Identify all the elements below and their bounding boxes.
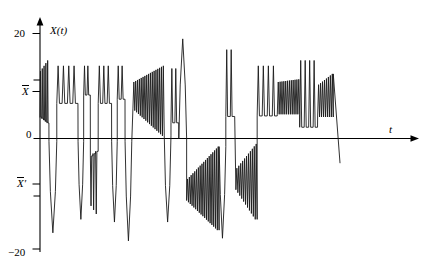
y-tick-label-minus20: −20 xyxy=(8,247,25,258)
x-axis-title: t xyxy=(389,124,392,135)
y-axis-arrowhead xyxy=(37,17,44,26)
y-tick-marks xyxy=(33,34,41,250)
y-tick-label-mean-lower-text: X xyxy=(17,177,24,189)
x-axis-arrowhead xyxy=(411,135,420,142)
overbar-upper xyxy=(22,85,29,86)
y-tick-label-mean-upper-text: X xyxy=(22,85,29,97)
prime-mark: ′ xyxy=(24,177,26,189)
chart-canvas xyxy=(0,0,434,268)
y-tick-label-zero: 0 xyxy=(26,129,32,140)
signal-trace-xt xyxy=(40,39,340,241)
y-tick-label-20: 20 xyxy=(14,28,25,39)
overbar-lower xyxy=(17,177,24,178)
y-tick-label-mean-upper: X xyxy=(22,86,29,97)
y-tick-label-mean-lower: X′ xyxy=(17,178,26,189)
y-axis-title: X(t) xyxy=(50,25,67,36)
series-group xyxy=(40,39,340,241)
figure-panel: 20 −20 0 X X′ X(t) t xyxy=(0,0,434,268)
